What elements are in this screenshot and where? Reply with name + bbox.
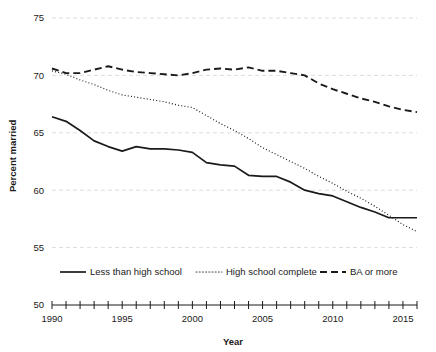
x-axis-title: Year [223, 336, 243, 347]
series-group [52, 66, 417, 231]
legend-label-0: Less than high school [90, 266, 182, 277]
x-tick-label: 2015 [392, 313, 413, 324]
y-tick-label: 50 [33, 299, 44, 310]
x-tick-label: 1995 [112, 313, 133, 324]
y-axis-tick-labels: 505560657075 [33, 12, 44, 310]
legend-label-1: High school complete [226, 266, 317, 277]
y-tick-label: 70 [33, 70, 44, 81]
legend-label-2: BA or more [350, 266, 398, 277]
x-axis-tick-labels: 199019952000200520102015 [41, 313, 413, 324]
chart-container: 505560657075 Percent married 19901995200… [0, 0, 436, 352]
series-line-0 [52, 117, 417, 218]
legend-group: Less than high schoolHigh school complet… [60, 266, 398, 277]
x-tick-label: 2005 [252, 313, 273, 324]
x-axis-title-group: Year [223, 336, 243, 347]
y-axis-title: Percent married [7, 119, 18, 192]
y-tick-label: 75 [33, 12, 44, 23]
y-tick-label: 60 [33, 185, 44, 196]
y-axis-title-group: Percent married [7, 119, 18, 192]
y-tick-label: 65 [33, 127, 44, 138]
x-axis-group [52, 301, 417, 309]
x-tick-label: 2010 [322, 313, 343, 324]
line-chart: 505560657075 Percent married 19901995200… [0, 0, 436, 352]
x-tick-label: 2000 [182, 313, 203, 324]
gridlines-group [52, 18, 417, 248]
y-tick-label: 55 [33, 242, 44, 253]
x-tick-label: 1990 [41, 313, 62, 324]
